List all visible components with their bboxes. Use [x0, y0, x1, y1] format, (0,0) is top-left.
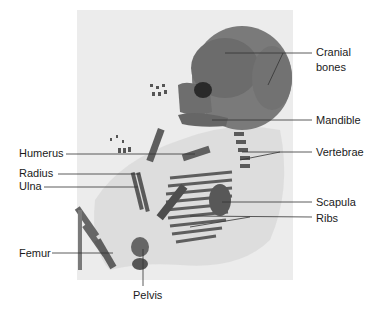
label-cranial-bones: Cranial bones — [316, 46, 351, 74]
label-humerus: Humerus — [19, 147, 64, 160]
label-radius: Radius — [19, 167, 53, 180]
label-vertebrae: Vertebrae — [316, 146, 364, 159]
label-ulna: Ulna — [19, 180, 42, 193]
scapula-bone — [209, 184, 231, 216]
label-scapula: Scapula — [316, 196, 356, 209]
pelvis-lower — [132, 258, 148, 270]
orbit — [194, 82, 212, 98]
label-cranial-line1: Cranial — [316, 46, 351, 59]
label-femur: Femur — [19, 247, 51, 260]
pelvis-upper — [131, 237, 149, 257]
cranial-plate-rear — [252, 46, 292, 110]
label-pelvis: Pelvis — [133, 289, 162, 302]
body-silhouette — [94, 127, 284, 270]
label-mandible: Mandible — [316, 114, 361, 127]
label-ribs: Ribs — [316, 212, 338, 225]
leg-left — [78, 210, 82, 270]
label-cranial-line2: bones — [316, 61, 351, 74]
